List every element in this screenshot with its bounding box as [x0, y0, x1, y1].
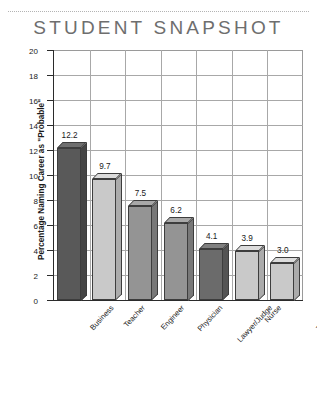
chart-title: STUDENT SNAPSHOT — [0, 17, 317, 39]
y-axis-tick-label: 2 — [34, 272, 38, 281]
bar-value-label: 3.0 — [277, 246, 288, 255]
bar-front-face — [128, 206, 152, 300]
x-axis-label: Teacher — [123, 304, 148, 330]
y-axis-tick-label: 20 — [29, 47, 38, 56]
y-axis-tick-label: 16 — [29, 97, 38, 106]
y-axis-tick: 14 — [47, 125, 54, 126]
bar: 7.5 — [128, 206, 152, 300]
y-axis-tick: 16 — [47, 100, 54, 101]
y-axis-tick-label: 0 — [34, 297, 38, 306]
bar: 4.1 — [199, 249, 223, 300]
bar-value-label: 4.1 — [206, 232, 217, 241]
bar-front-face — [199, 249, 223, 300]
y-axis-tick-label: 12 — [29, 147, 38, 156]
y-axis-tick-label: 14 — [29, 122, 38, 131]
y-axis-tick: 2 — [47, 275, 54, 276]
bar-value-label: 3.9 — [242, 234, 253, 243]
y-axis-tick: 4 — [47, 250, 54, 251]
x-axis-label: Business — [89, 304, 116, 332]
bar-side-face — [81, 142, 87, 300]
bar: 3.0 — [270, 263, 294, 301]
gridline-vertical — [125, 50, 126, 300]
bar-side-face — [294, 257, 300, 300]
bar-value-label: 7.5 — [135, 189, 146, 198]
gridline-vertical — [196, 50, 197, 300]
y-axis-tick: 12 — [47, 150, 54, 151]
gridline-horizontal — [54, 125, 303, 126]
y-axis-tick-label: 18 — [29, 72, 38, 81]
bar-front-face — [270, 263, 294, 301]
gridline-horizontal — [54, 200, 303, 201]
y-axis-tick-label: 8 — [34, 197, 38, 206]
gridline-vertical — [232, 50, 233, 300]
y-axis-tick: 6 — [47, 225, 54, 226]
y-axis-tick: 18 — [47, 75, 54, 76]
gridline-horizontal — [54, 150, 303, 151]
y-axis-tick-label: 10 — [29, 172, 38, 181]
bar-front-face — [92, 179, 116, 300]
bar-front-face — [57, 148, 81, 301]
bar-front-face — [235, 251, 259, 300]
bar-side-face — [188, 217, 194, 300]
y-axis-tick: 8 — [47, 200, 54, 201]
plot-area: 02468101214161820 12.29.77.56.24.13.93.0 — [53, 50, 303, 301]
gridline-horizontal — [54, 175, 303, 176]
bar: 3.9 — [235, 251, 259, 300]
y-axis-tick: 10 — [47, 175, 54, 176]
bar: 12.2 — [57, 148, 81, 301]
y-axis-tick-label: 4 — [34, 247, 38, 256]
x-axis-label: Therapist (physical, occupational, speec… — [306, 304, 317, 360]
bar-side-face — [152, 200, 158, 300]
bar-value-label: 6.2 — [170, 206, 181, 215]
gridline-horizontal — [54, 75, 303, 76]
y-axis-tick: 0 — [47, 300, 54, 301]
gridline-vertical — [267, 50, 268, 300]
gridline-vertical — [161, 50, 162, 300]
bar: 9.7 — [92, 179, 116, 300]
top-divider-rule — [8, 11, 309, 12]
bar-value-label: 12.2 — [62, 131, 78, 140]
gridline-horizontal — [54, 100, 303, 101]
bar-side-face — [223, 243, 229, 300]
gridline-vertical — [90, 50, 91, 300]
x-axis-label: Engineer — [160, 304, 187, 332]
y-axis-tick: 20 — [47, 50, 54, 51]
bar-front-face — [164, 223, 188, 301]
y-axis-tick-label: 6 — [34, 222, 38, 231]
bar-value-label: 9.7 — [99, 162, 110, 171]
bar-side-face — [259, 245, 265, 300]
bar-side-face — [116, 173, 122, 300]
x-axis-label: Physician — [196, 304, 224, 334]
bar: 6.2 — [164, 223, 188, 301]
